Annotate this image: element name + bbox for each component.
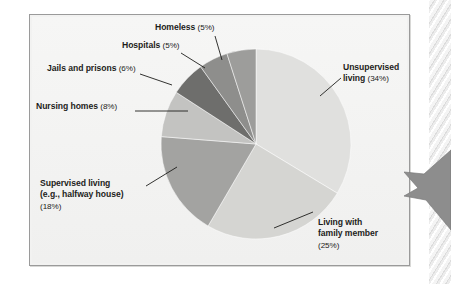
screenshot-stage: Homeless (5%) Hospitals (5%) Jails and p… [0,0,451,284]
leader-line-hospitals [181,53,205,68]
slice-label-jails-and-prisons: Jails and prisons (6%) [47,63,136,74]
page-marker-arrow-shape [404,150,451,230]
spiral-binding [429,0,451,284]
slice-label-living-with-family-member: Living with family member (25%) [318,217,378,251]
unsupervised-line-2: living (34%) [343,73,399,84]
supervised-line-1: Supervised living [40,178,123,189]
leader-line-homeless [215,36,222,60]
page-marker-arrow [404,148,451,232]
family-line-1: Living with [318,217,378,228]
pie-slice-group [161,49,351,239]
pie-chart [0,0,451,284]
leader-line-jails [140,74,172,85]
slice-label-hospitals: Hospitals (5%) [122,40,179,51]
family-line-2: family member [318,228,378,239]
family-line-3: (25%) [318,240,378,251]
slice-label-unsupervised-living: Unsupervised living (34%) [343,62,399,85]
supervised-line-2: (e.g., halfway house) [40,189,123,200]
slice-label-nursing-homes: Nursing homes (8%) [36,101,117,112]
slice-label-supervised-living: Supervised living (e.g., halfway house) … [40,178,123,212]
supervised-line-3: (18%) [40,201,123,212]
unsupervised-line-1: Unsupervised [343,62,399,73]
slice-label-homeless: Homeless (5%) [155,22,214,33]
